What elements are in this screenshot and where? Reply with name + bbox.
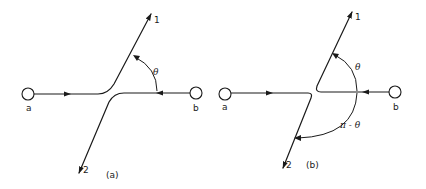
track-b-to-1: [317, 12, 390, 92]
node-b-label: b: [393, 102, 399, 112]
node-b-label: b: [193, 103, 199, 113]
panel-a: a b 1 2 θ (a): [22, 14, 202, 180]
panel-a-caption: (a): [106, 170, 119, 180]
outgoing-1-label: 1: [355, 12, 361, 22]
theta-arc: [335, 55, 357, 91]
node-b: [389, 86, 401, 98]
arrow-icon: [332, 53, 339, 59]
pi-minus-theta-arc: [298, 93, 357, 138]
panel-b: a b 1 2 θ π - θ (b): [219, 12, 401, 170]
node-a-label: a: [222, 102, 228, 112]
arrow-icon: [64, 92, 71, 97]
node-a-label: a: [26, 103, 32, 113]
arrow-icon: [266, 91, 273, 96]
arrow-icon: [294, 135, 301, 141]
node-a: [219, 88, 231, 100]
outgoing-1-label: 1: [154, 15, 160, 25]
track-a-to-1: [34, 14, 151, 94]
arrow-icon: [362, 90, 369, 95]
track-b-to-2: [79, 93, 190, 173]
node-a: [22, 88, 34, 100]
outgoing-2-label: 2: [83, 165, 89, 175]
arrow-icon: [156, 91, 163, 96]
pi-minus-theta-label: π - θ: [339, 120, 361, 130]
theta-label: θ: [355, 62, 361, 72]
theta-label: θ: [153, 67, 159, 77]
track-a-to-2: [231, 93, 312, 168]
panel-b-caption: (b): [306, 160, 319, 170]
outgoing-2-label: 2: [286, 160, 292, 170]
scattering-diagram: a b 1 2 θ (a) a b 1 2 θ π - θ (b): [0, 0, 426, 189]
node-b: [190, 87, 202, 99]
arrow-icon: [133, 55, 140, 61]
